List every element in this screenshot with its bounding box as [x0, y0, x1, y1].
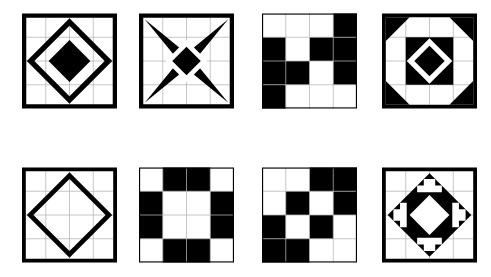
quilt-block-diagonal-checkerboard — [262, 167, 357, 263]
quilt-block-cross-frame — [139, 167, 234, 263]
quilt-block-diamond-in-square — [22, 13, 117, 109]
quilt-block-corner-triangles-diamond — [382, 13, 477, 109]
quilt-block-four-point-star — [139, 13, 234, 109]
quilt-block-plain-diamond-outline — [22, 167, 117, 263]
quilt-block-chart — [0, 0, 491, 277]
quilt-block-stepping-stones — [262, 13, 357, 109]
quilt-block-diamond-with-crosses — [382, 167, 477, 263]
